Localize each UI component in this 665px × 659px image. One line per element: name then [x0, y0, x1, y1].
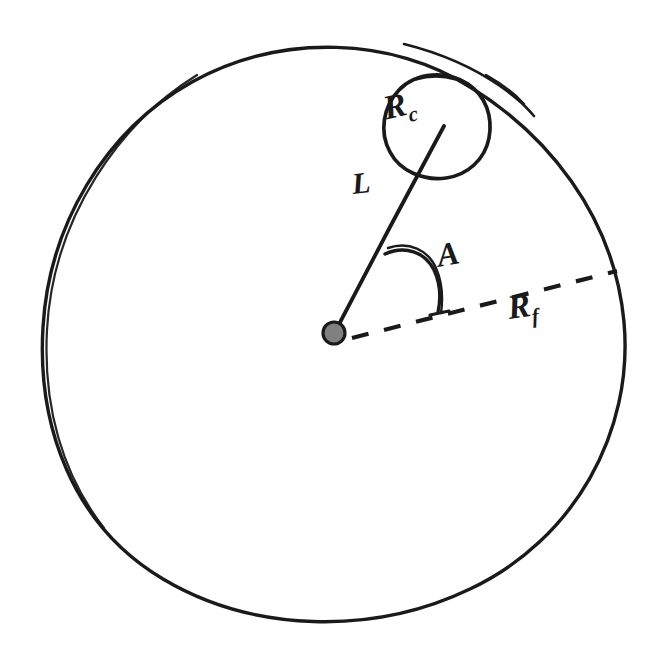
reference-line-dashed: [352, 271, 617, 338]
sketch-svg: [0, 0, 665, 659]
label-L-base: L: [350, 165, 372, 200]
label-Rf-base: R: [505, 286, 533, 326]
arm-line-L: [336, 126, 444, 330]
center-dot: [323, 322, 345, 344]
outer-circle-overdraw-left: [46, 75, 197, 528]
outer-circle-overdraw-topright: [404, 44, 534, 116]
diagram-canvas: Rc L A Rf: [0, 0, 665, 659]
angle-arc-tick: [430, 311, 449, 315]
angle-arc-overdraw: [388, 246, 442, 313]
label-arm-length: L: [350, 165, 372, 201]
label-outer-radius: Rf: [505, 285, 541, 333]
